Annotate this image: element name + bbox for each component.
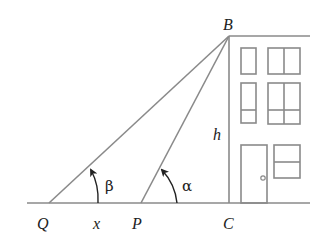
angle-beta-arc <box>91 170 98 203</box>
label-c: C <box>223 215 234 232</box>
label-x: x <box>92 215 100 232</box>
door <box>241 145 267 203</box>
elevation-diagram: B h Q x P C β α <box>0 0 332 242</box>
label-h: h <box>213 126 221 143</box>
building <box>229 36 310 203</box>
label-beta: β <box>105 177 114 195</box>
label-alpha: α <box>182 177 192 195</box>
angle-alpha-arc <box>162 170 177 203</box>
window-1 <box>241 48 256 74</box>
label-q: Q <box>37 215 49 232</box>
label-b: B <box>223 16 233 33</box>
label-p: P <box>131 215 142 232</box>
line-qb <box>49 36 229 203</box>
window-3 <box>241 83 256 123</box>
door-knob <box>261 176 265 180</box>
